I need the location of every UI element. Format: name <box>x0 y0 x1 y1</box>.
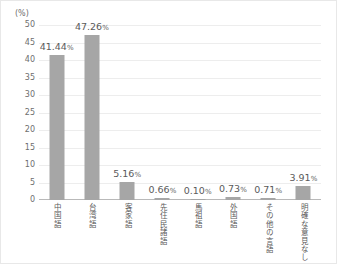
x-axis-category-label: 台湾語 <box>88 203 96 228</box>
y-axis-tick-10: 10 <box>11 161 35 169</box>
x-axis-category-label: 客家語 <box>123 203 131 228</box>
bar-value-number: 0.66 <box>148 184 169 195</box>
x-axis-category-label: 先住民諸語 <box>158 203 166 245</box>
x-axis-category-label: その他の言語 <box>264 203 272 253</box>
bar-value-number: 3.91 <box>289 172 310 183</box>
bar <box>84 35 99 200</box>
x-axis-category-label: 外国語 <box>229 203 237 228</box>
y-axis-tick-35: 35 <box>11 74 35 82</box>
bar-value-percent-sign: % <box>134 171 141 179</box>
bar-value-percent-sign: % <box>311 175 318 183</box>
bar-value-percent-sign: % <box>67 44 74 52</box>
y-axis-unit-label: (%) <box>15 9 29 18</box>
bar <box>296 186 311 200</box>
bar-value-number: 0.71 <box>254 184 275 195</box>
y-axis-tick-15: 15 <box>11 144 35 152</box>
bar-value-label: 0.71% <box>254 185 282 196</box>
plot-area: 41.44%47.26%5.16%0.66%0.10%0.73%0.71%3.9… <box>39 25 321 200</box>
bar-value-number: 0.10 <box>184 185 205 196</box>
bar-slot: 47.26% <box>74 25 109 200</box>
bar-value-percent-sign: % <box>240 186 247 194</box>
y-axis-tick-50: 50 <box>11 21 35 29</box>
bar-slot: 0.73% <box>215 25 250 200</box>
bar-value-label: 41.44% <box>40 42 74 53</box>
bar-value-number: 0.73 <box>219 183 240 194</box>
bar-value-percent-sign: % <box>170 187 177 195</box>
bar <box>120 182 135 200</box>
bar-value-percent-sign: % <box>205 188 212 196</box>
y-axis-tick-25: 25 <box>11 109 35 117</box>
bar-value-label: 0.10% <box>184 186 212 197</box>
y-axis-tick-0: 0 <box>11 196 35 204</box>
bar-slot: 0.66% <box>145 25 180 200</box>
bar <box>49 55 64 200</box>
bar-value-label: 47.26% <box>75 22 109 33</box>
bar <box>261 198 276 200</box>
bar-chart: (%) 05101520253035404550 41.44%47.26%5.1… <box>0 0 337 264</box>
y-axis-tick-20: 20 <box>11 126 35 134</box>
x-axis-category-label: 明確な意見なし <box>299 203 307 262</box>
bar-value-number: 5.16 <box>113 168 134 179</box>
bar <box>190 199 205 200</box>
y-axis-tick-45: 45 <box>11 39 35 47</box>
bar-value-label: 0.66% <box>148 185 176 196</box>
bar-value-label: 3.91% <box>289 173 317 184</box>
bar-slot: 41.44% <box>39 25 74 200</box>
y-axis-tick-5: 5 <box>11 179 35 187</box>
bar-value-label: 5.16% <box>113 169 141 180</box>
y-axis-tick-40: 40 <box>11 56 35 64</box>
bar-slot: 3.91% <box>286 25 321 200</box>
y-axis-tick-30: 30 <box>11 91 35 99</box>
bar-value-percent-sign: % <box>102 24 109 32</box>
x-axis-category-label: 中国語 <box>53 203 61 228</box>
bar-value-number: 47.26 <box>75 21 102 32</box>
x-axis-category-label: 馬祖語 <box>194 203 202 228</box>
bar-value-percent-sign: % <box>275 187 282 195</box>
bar-value-number: 41.44 <box>40 41 67 52</box>
bar-slot: 0.71% <box>251 25 286 200</box>
bar-slot: 0.10% <box>180 25 215 200</box>
bar <box>225 197 240 200</box>
bar-value-label: 0.73% <box>219 184 247 195</box>
bar-slot: 5.16% <box>110 25 145 200</box>
bar <box>155 198 170 200</box>
